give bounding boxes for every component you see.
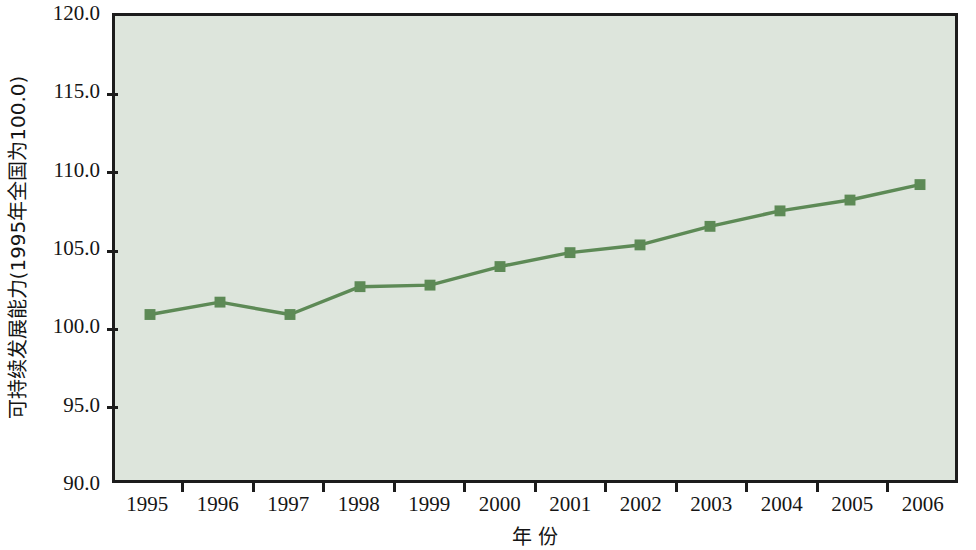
series-marker-group: [145, 179, 926, 320]
series-data-point: [425, 280, 436, 291]
x-axis-tick-label: 2005: [831, 492, 873, 517]
x-axis-tickmark: [534, 483, 537, 492]
x-axis-tickmark: [252, 483, 255, 492]
x-axis-tick-label: 1998: [338, 492, 380, 517]
x-axis-tickmark: [675, 483, 678, 492]
plot-area: [112, 13, 958, 483]
series-data-point: [495, 261, 506, 272]
series-data-point: [215, 297, 226, 308]
x-axis-tickmark: [816, 483, 819, 492]
y-axis-tickmark: [107, 406, 118, 409]
series-data-point: [775, 205, 786, 216]
series-data-point: [565, 247, 576, 258]
x-axis-title-label: 年 份: [512, 525, 558, 549]
y-axis-tickmark: [107, 171, 118, 174]
x-axis-tickmark: [604, 483, 607, 492]
y-axis-tick-label-group: 120.0115.0110.0105.0100.095.090.0: [34, 0, 106, 500]
x-axis-tick-label: 2006: [902, 492, 944, 517]
x-axis-tick-label: 1997: [267, 492, 309, 517]
series-data-point: [705, 221, 716, 232]
series-line: [150, 185, 920, 315]
plot-series-svg: [115, 16, 955, 480]
series-data-point: [845, 195, 856, 206]
x-axis-tick-label: 2000: [479, 492, 521, 517]
x-axis-tick-label: 2002: [620, 492, 662, 517]
y-axis-tick-label: 120.0: [53, 1, 100, 26]
x-axis-tick-label: 1996: [197, 492, 239, 517]
y-axis-tick-label: 110.0: [54, 157, 100, 182]
series-data-point: [285, 309, 296, 320]
y-axis-tick-label: 115.0: [54, 79, 100, 104]
x-axis-tickmark: [393, 483, 396, 492]
series-data-point: [635, 239, 646, 250]
x-axis-tickmark: [322, 483, 325, 492]
y-axis-tick-label: 90.0: [63, 471, 100, 496]
y-axis-tickmark: [107, 328, 118, 331]
series-data-point: [355, 281, 366, 292]
series-data-point: [915, 179, 926, 190]
x-axis-title: 年 份: [112, 521, 958, 550]
series-data-point: [145, 309, 156, 320]
x-axis-tick-label: 1999: [408, 492, 450, 517]
x-axis-tickmark: [181, 483, 184, 492]
x-axis-tickmark: [463, 483, 466, 492]
y-axis-title: 可持续发展能力(1995年全国为100.0): [0, 0, 34, 495]
x-axis-tick-label: 1995: [126, 492, 168, 517]
x-axis-tick-label: 2001: [549, 492, 591, 517]
sustainable-development-line-chart: 可持续发展能力(1995年全国为100.0) 120.0115.0110.010…: [0, 0, 976, 550]
y-axis-tickmark: [107, 93, 118, 96]
y-axis-title-label: 可持续发展能力(1995年全国为100.0): [3, 76, 32, 420]
y-axis-tick-label: 95.0: [63, 392, 100, 417]
x-axis-tickmark: [886, 483, 889, 492]
y-axis-tick-label: 105.0: [53, 236, 100, 261]
x-axis-tickmark: [745, 483, 748, 492]
y-axis-tickmark: [107, 250, 118, 253]
x-axis-tick-label: 2003: [690, 492, 732, 517]
y-axis-tick-label: 100.0: [53, 314, 100, 339]
x-axis-tick-label: 2004: [761, 492, 803, 517]
